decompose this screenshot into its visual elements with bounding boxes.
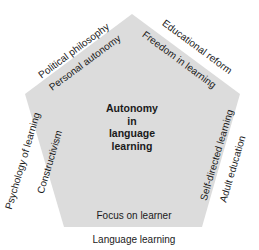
center-title: Autonomy in language learning: [90, 102, 174, 152]
center-line-3: language: [90, 127, 174, 140]
diagram-canvas: Autonomy in language learning Political …: [0, 0, 259, 250]
center-line-4: learning: [90, 140, 174, 153]
center-line-2: in: [90, 115, 174, 128]
outer-label-bottom: Language learning: [79, 235, 189, 245]
inner-label-bottom: Focus on learner: [79, 211, 189, 221]
center-line-1: Autonomy: [90, 102, 174, 115]
